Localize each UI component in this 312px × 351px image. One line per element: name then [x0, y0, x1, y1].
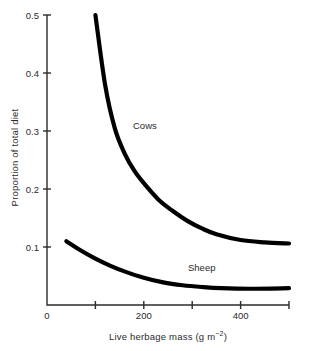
y-axis-title: Proportion of total diet — [9, 58, 20, 258]
x-axis-title-exponent: −2 — [215, 330, 223, 337]
x-axis-title-tail: ) — [224, 331, 227, 342]
x-tick-label-group: 0200400 — [0, 0, 312, 351]
chart-figure: 0.50.40.30.20.1 0200400 Proportion of to… — [0, 0, 312, 351]
x-axis-title-main: Live herbage mass (g m — [109, 331, 215, 342]
x-tick-label: 0 — [27, 310, 67, 321]
series-label-sheep: Sheep — [188, 262, 215, 273]
series-label-cows: Cows — [133, 120, 157, 131]
x-tick-label: 400 — [221, 310, 261, 321]
x-tick-label: 200 — [124, 310, 164, 321]
x-axis-title: Live herbage mass (g m−2) — [47, 330, 289, 342]
